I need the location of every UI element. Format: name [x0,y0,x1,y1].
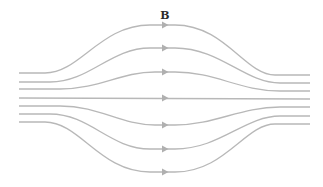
arrow-right-icon [162,69,169,76]
arrow-right-icon [162,95,169,102]
arrow-right-icon [162,22,169,29]
field-lines-group [19,22,310,176]
arrow-right-icon [162,146,169,153]
arrow-right-icon [162,45,169,52]
magnetic-field-lines-diagram: B [0,0,323,187]
field-line-2 [19,48,310,83]
field-label-b: B [160,9,169,22]
field-line-6 [19,114,310,149]
arrow-right-icon [162,122,169,129]
arrow-right-icon [162,169,169,176]
